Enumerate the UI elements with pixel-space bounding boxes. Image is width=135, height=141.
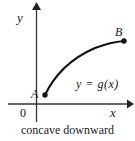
- point-a-label: A: [31, 88, 38, 100]
- x-axis-label: x: [110, 106, 116, 119]
- y-axis-arrowhead: [32, 2, 41, 10]
- figure-caption: concave downward: [0, 124, 135, 137]
- origin-label: 0: [20, 107, 26, 119]
- point-a-marker: [42, 92, 47, 97]
- curve-equation-label: y = g(x): [76, 78, 119, 90]
- x-axis-arrowhead: [127, 100, 134, 109]
- point-b-label: B: [115, 26, 122, 38]
- concavity-figure: y x 0 A B y = g(x) concave downward: [0, 0, 135, 141]
- y-axis-label: y: [17, 11, 23, 24]
- point-b-marker: [121, 38, 126, 43]
